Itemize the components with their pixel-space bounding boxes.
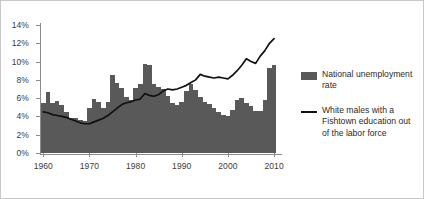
x-tick [136, 153, 137, 157]
bar-swatch-icon [301, 72, 317, 80]
x-axis-line [40, 154, 282, 155]
y-tick [36, 25, 40, 26]
chart-plot-region: 0%2%4%6%8%10%12%14% 19601970198019902000… [13, 15, 297, 187]
y-tick-label: 12% [12, 38, 29, 48]
legend-label-national-unemployment-rate: National unemployment rate [322, 69, 419, 92]
y-tick [36, 153, 40, 154]
x-tick-label: 1970 [80, 161, 99, 171]
line-series-white-males-out-of-labor-force [41, 25, 281, 153]
x-tick-label: 1960 [34, 161, 53, 171]
legend-label-white-males-out-of-labor-force: White males with a Fishtown education ou… [322, 105, 419, 139]
y-tick-label: 14% [12, 20, 29, 30]
y-tick [36, 116, 40, 117]
x-tick [43, 153, 44, 157]
chart-legend: National unemployment rate White males w… [301, 69, 419, 152]
x-tick-label: 1990 [172, 161, 191, 171]
x-tick [228, 153, 229, 157]
legend-item-national-unemployment-rate: National unemployment rate [301, 69, 419, 92]
line-swatch-icon [301, 111, 317, 113]
legend-item-white-males-out-of-labor-force: White males with a Fishtown education ou… [301, 105, 419, 139]
y-tick-label: 0% [17, 148, 30, 158]
y-tick [36, 43, 40, 44]
y-tick-label: 6% [17, 93, 30, 103]
y-tick-label: 8% [17, 75, 30, 85]
x-tick [89, 153, 90, 157]
y-tick-label: 10% [12, 57, 29, 67]
chart-figure: 0%2%4%6%8%10%12%14% 19601970198019902000… [0, 0, 424, 199]
x-tick-label: 1980 [126, 161, 145, 171]
y-tick [36, 135, 40, 136]
y-tick [36, 98, 40, 99]
x-tick [182, 153, 183, 157]
y-tick [36, 80, 40, 81]
y-tick-label: 2% [17, 130, 30, 140]
y-tick [36, 62, 40, 63]
data-plot [41, 25, 281, 153]
y-tick-label: 4% [17, 111, 30, 121]
x-tick [274, 153, 275, 157]
x-tick-label: 2000 [218, 161, 237, 171]
x-tick-label: 2010 [264, 161, 283, 171]
